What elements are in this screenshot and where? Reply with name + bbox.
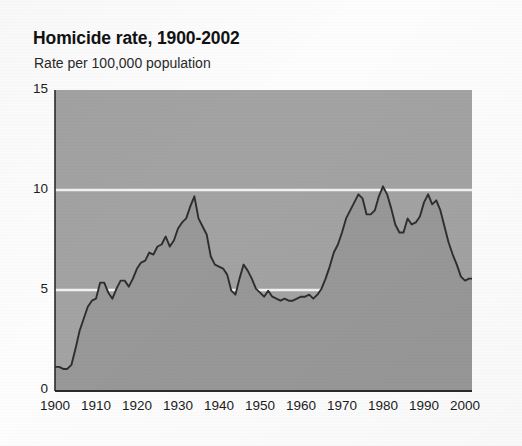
chart-page: Homicide rate, 1900-2002 Rate per 100,00…: [0, 0, 522, 446]
plot-area: 15 10 5 0 1900 1910 1920 1930 1940 1950 …: [0, 0, 522, 446]
homicide-rate-area-chart: [0, 0, 522, 446]
